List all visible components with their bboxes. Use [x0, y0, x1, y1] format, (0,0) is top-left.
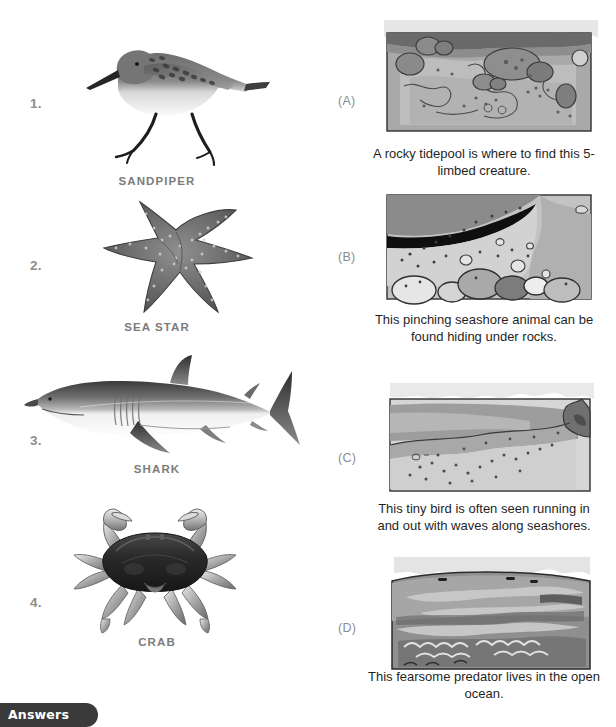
choice-letter-d: (D) [338, 621, 356, 635]
choice-letter-a: (A) [338, 94, 356, 108]
open-ocean-scene [380, 555, 602, 675]
choice-caption-a: A rocky tidepool is where to find this 5… [368, 146, 600, 179]
answers-tab-label: Answers [8, 707, 69, 722]
sea-star-illustration [40, 202, 308, 322]
item-label-3: SHARK [0, 463, 322, 475]
question-item-2: 2. [0, 196, 330, 346]
choice-item-d: (D) [330, 555, 616, 720]
item-number-4: 4. [30, 595, 42, 610]
crab-illustration [60, 507, 250, 637]
choice-caption-c: This tiny bird is often seen running in … [368, 501, 600, 534]
sandpiper-illustration [40, 28, 308, 168]
choice-item-b: (B) [330, 190, 616, 375]
choice-item-c: (C) [330, 383, 616, 563]
shark-illustration [20, 355, 310, 467]
sandy-shoreline-scene [380, 383, 602, 498]
question-item-1: 1. [0, 20, 330, 195]
answers-tab[interactable]: Answers [0, 703, 98, 727]
question-item-3: 3. [0, 355, 330, 500]
question-item-4: 4. [0, 503, 330, 663]
choice-caption-d: This fearsome predator lives in the open… [368, 669, 600, 702]
choice-letter-b: (B) [338, 250, 356, 264]
item-label-1: SANDPIPER [0, 175, 322, 187]
rock-crevice-scene [380, 190, 602, 308]
rocky-tidepool-scene [380, 20, 602, 142]
choice-letter-c: (C) [338, 451, 356, 465]
item-label-2: SEA STAR [0, 321, 322, 333]
choice-caption-b: This pinching seashore animal can be fou… [368, 312, 600, 345]
choice-item-a: (A) [330, 20, 616, 188]
item-label-4: CRAB [0, 636, 322, 648]
